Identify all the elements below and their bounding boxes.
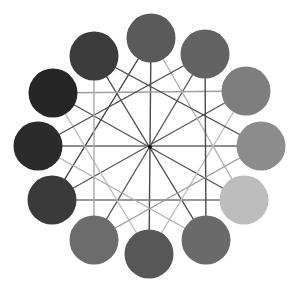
node-n2 (222, 67, 271, 116)
node-n8 (28, 176, 77, 225)
edge-n10-n2 (53, 91, 246, 93)
edge-n1-n5 (205, 54, 206, 240)
node-n10 (29, 69, 78, 118)
node-n9 (14, 122, 63, 171)
hub-point (148, 145, 152, 149)
node-n12 (127, 14, 176, 63)
node-n3 (237, 122, 286, 171)
hub-layer (148, 145, 152, 149)
network-diagram (0, 0, 299, 295)
diagram-canvas (0, 0, 299, 295)
node-n5 (182, 216, 231, 265)
node-n11 (70, 32, 119, 81)
node-n7 (70, 216, 119, 265)
node-n1 (181, 30, 230, 79)
node-n6 (125, 230, 174, 279)
node-n4 (220, 176, 269, 225)
